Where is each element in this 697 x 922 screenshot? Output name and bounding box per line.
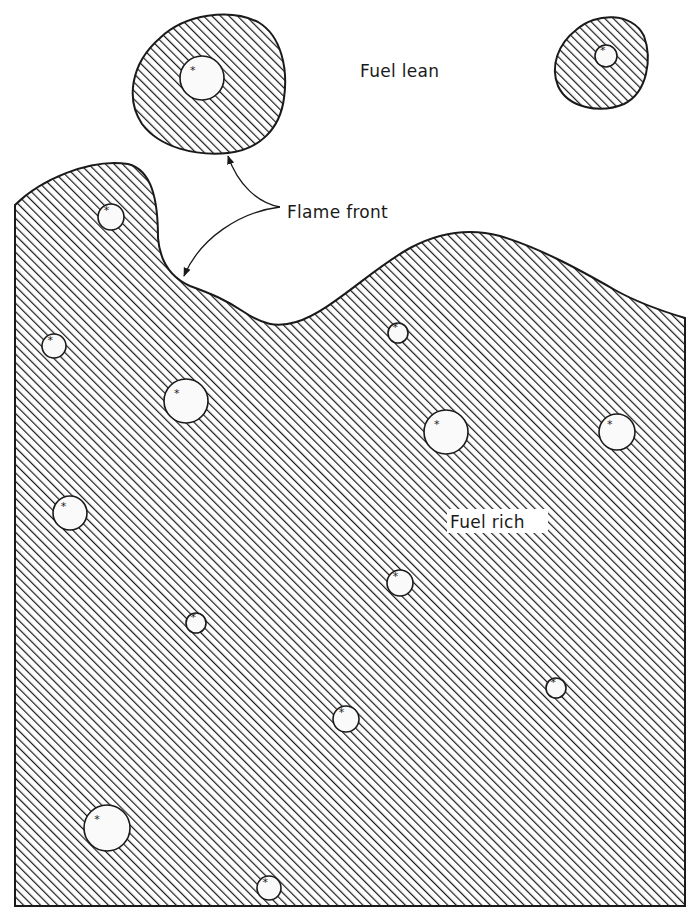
droplet: * [42,334,66,358]
droplet: * [180,56,224,100]
droplet-circle [387,570,413,596]
droplet-circle [98,204,124,230]
flame-front-label: Flame front [287,202,388,222]
droplet: * [164,379,208,423]
droplet-circle [257,876,281,900]
droplet-circle [180,56,224,100]
droplet-circle [84,805,130,851]
droplet-circle [595,45,617,67]
droplet: * [387,570,413,596]
fuel-lean-label: Fuel lean [360,61,439,81]
droplet: * [98,204,124,230]
droplet-marker-icon: * [551,676,557,689]
droplet: * [424,410,468,454]
droplet: * [595,44,617,67]
droplet-marker-icon: * [47,334,53,347]
droplet: * [84,805,130,851]
droplet-marker-icon: * [600,44,606,57]
droplet: * [599,414,635,450]
droplet-circle [424,410,468,454]
droplet-circle [599,414,635,450]
flame-front-diagram: *************** Fuel lean Flame front Fu… [0,0,697,922]
droplet-marker-icon: * [393,321,399,334]
fuel-rich-label: Fuel rich [450,512,525,532]
droplet-marker-icon: * [61,500,67,513]
droplet-circle [53,496,87,530]
droplet: * [53,496,87,530]
droplet-marker-icon: * [190,64,196,77]
droplet-circle [546,678,566,698]
droplet-marker-icon: * [393,570,399,583]
flame-front-arrow-lower [184,207,280,276]
droplet-circle [164,379,208,423]
droplet-marker-icon: * [104,204,110,217]
droplet-marker-icon: * [434,418,440,431]
droplet-circle [42,334,66,358]
droplet-marker-icon: * [174,387,180,400]
droplet-marker-icon: * [94,813,100,826]
flame-front-arrow-upper [228,156,280,207]
droplet-circle [333,706,359,732]
droplet-marker-icon: * [339,706,345,719]
droplet-marker-icon: * [191,611,197,624]
fuel-rich-zone [15,163,685,906]
droplet: * [333,706,359,732]
droplet: * [257,876,281,900]
droplet-circle [186,613,206,633]
droplet-marker-icon: * [262,876,268,889]
droplet-marker-icon: * [607,418,613,431]
droplet-circle [388,323,408,343]
